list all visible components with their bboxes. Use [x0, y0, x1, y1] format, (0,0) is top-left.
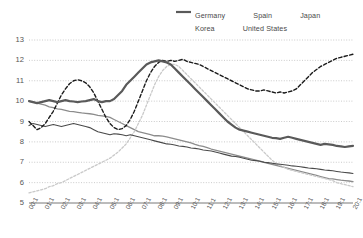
series-line-united-states	[29, 60, 353, 147]
y-tick-label: 8	[8, 138, 24, 146]
y-tick-label: 6	[8, 179, 24, 187]
y-tick-label: 7	[8, 158, 24, 166]
y-tick-label: 10	[8, 97, 24, 105]
y-tick-label: 9	[8, 118, 24, 126]
y-tick-label: 11	[8, 77, 24, 85]
y-tick-label: 5	[8, 199, 24, 207]
y-tick-label: 13	[8, 36, 24, 44]
series-line-korea	[29, 54, 353, 129]
y-tick-label: 12	[8, 56, 24, 64]
series-line-japan	[29, 124, 353, 174]
